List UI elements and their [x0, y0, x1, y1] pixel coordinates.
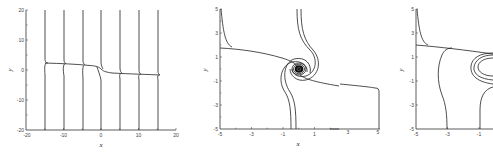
panel-2-xtick-label: 1: [313, 131, 316, 137]
panel-1-x-label: x: [98, 141, 103, 149]
panel-1-xtick-label: 20: [173, 132, 179, 138]
panel-2-xtick-label: -5: [218, 131, 223, 137]
panel-2-y-label: y: [201, 68, 209, 73]
panel-2b-xtick-label: 5: [377, 129, 380, 135]
panel-3-ytick-label: 3: [411, 30, 414, 36]
panel-3-trajectories: [416, 9, 493, 129]
panel-3-y-label: y: [397, 68, 405, 73]
panel-2-xtick-label: -3: [249, 131, 254, 137]
panel-1-ytick-label: 20: [18, 7, 24, 13]
panel-2-ytick-label: 5: [215, 6, 218, 12]
panel-1-ytick-label: 10: [18, 37, 24, 43]
panel-2-ytick-label: 1: [215, 54, 218, 60]
panel-2-ytick-label: -3: [214, 102, 219, 108]
panel-1-xtick-label: 10: [136, 132, 142, 138]
panel-2-x-label: x: [295, 140, 300, 148]
panel-2b-fragment: 3 5: [330, 84, 380, 135]
panel-1: 20 10 0 -10 -20 -20 -10 0 10 20 x y: [6, 7, 179, 149]
panel-3-ytick-label: 1: [411, 54, 414, 60]
panel-1-ytick-label: -10: [17, 97, 24, 103]
panel-2-ytick-label: -1: [214, 78, 219, 84]
panel-3-ytick-label: -1: [410, 78, 415, 84]
panel-2-ytick-label: 3: [215, 30, 218, 36]
panel-2-focus-point: [295, 65, 304, 73]
panel-3-ytick-label: -3: [410, 102, 415, 108]
panel-1-xtick-label: -20: [23, 132, 30, 138]
panel-2b-trajectory: [340, 84, 379, 129]
panel-1-y-label: y: [6, 68, 14, 73]
panel-2-trajectories: [220, 9, 339, 129]
panel-1-ytick-label: 0: [21, 67, 24, 73]
panel-3-xtick-label: -1: [477, 131, 482, 137]
panel-3: 5 3 1 -1 -3 -5 -5 -3 -1 y: [397, 6, 493, 137]
panel-3-xtick-label: -5: [414, 131, 419, 137]
panel-3-ytick-label: 5: [411, 6, 414, 12]
panel-1-xtick-label: -10: [60, 132, 67, 138]
panel-3-xtick-label: -3: [445, 131, 450, 137]
panel-1-manifold-curve: [45, 63, 160, 75]
panel-2b-xtick-label: 3: [347, 129, 350, 135]
panel-1-xtick-label: 0: [100, 132, 103, 138]
panel-2-xtick-label: -1: [281, 131, 286, 137]
panel-2: 5 3 1 -1 -3 -5 -5 -3 -1 1 x y: [201, 6, 339, 148]
figure: 20 10 0 -10 -20 -20 -10 0 10 20 x y: [0, 0, 493, 153]
